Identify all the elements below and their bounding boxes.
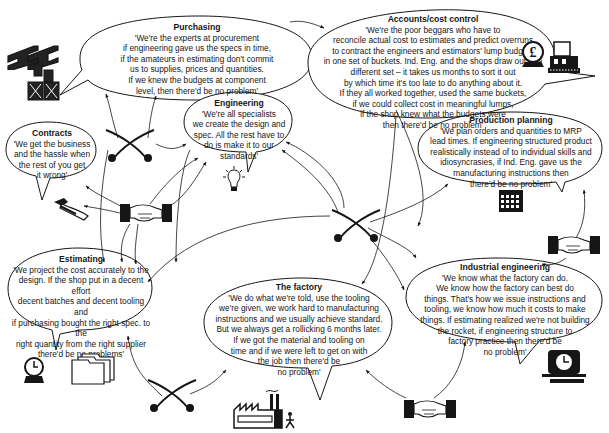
- estimating-quote: 'We project the cost accurately to the d…: [10, 265, 152, 360]
- factory-bubble-text: The factory 'We do what we're told, use …: [206, 282, 392, 377]
- engineering-title: Engineering: [186, 98, 292, 109]
- engineering-bubble-text: Engineering 'We're all specialists we cr…: [186, 98, 292, 162]
- accounts-title: Accounts/cost control: [308, 14, 558, 25]
- pound-coin-globe-icon: £: [520, 40, 546, 68]
- contracts-bubble-text: Contracts 'We get the business and the h…: [8, 128, 96, 181]
- estimating-bubble-text: Estimating 'We project the cost accurate…: [10, 254, 152, 360]
- time-clock-icon: [542, 348, 586, 384]
- file-folders-icon: [68, 352, 116, 386]
- industrial-engineering-bubble-text: Industrial engineering 'We know what the…: [408, 262, 602, 357]
- production-planning-quote: 'We plan orders and quantities to MRP le…: [420, 126, 602, 190]
- hand-signing-icon: [50, 196, 94, 222]
- purchasing-title: Purchasing: [86, 22, 308, 33]
- purchasing-bubble-text: Purchasing 'We're the experts at procure…: [86, 22, 308, 96]
- calendar-icon: [498, 188, 524, 214]
- cash-register-icon: [548, 40, 580, 74]
- handshake-icon: [546, 232, 602, 258]
- contracts-quote: 'We get the business and the hassle when…: [8, 139, 96, 181]
- industrial-engineering-title: Industrial engineering: [408, 262, 602, 273]
- crossed-swords-icon: [328, 206, 384, 244]
- estimating-title: Estimating: [10, 254, 152, 265]
- accounts-bubble-text: Accounts/cost control 'We're the poor be…: [308, 14, 558, 131]
- blame-diagram: Purchasing 'We're the experts at procure…: [0, 0, 609, 433]
- factory-title: The factory: [206, 282, 392, 293]
- light-bulb-icon: [222, 164, 246, 194]
- purchasing-quote: 'We're the experts at procurement if eng…: [86, 33, 308, 97]
- industrial-engineering-quote: 'We know what the factory can do. We kno…: [408, 273, 602, 358]
- production-planning-bubble-text: Production planning 'We plan orders and …: [420, 115, 602, 189]
- pound-glyph: £: [530, 45, 537, 60]
- stacked-crates-icon: [26, 62, 62, 102]
- contracts-title: Contracts: [8, 128, 96, 139]
- handshake-icon: [402, 396, 458, 422]
- engineering-quote: 'We're all specialists we create the des…: [186, 109, 292, 162]
- factory-quote: 'We do what we're told, use the tooling …: [206, 293, 392, 378]
- handshake-icon: [118, 200, 174, 226]
- crossed-swords-icon: [102, 126, 158, 164]
- crossed-swords-icon: [144, 376, 200, 414]
- production-planning-title: Production planning: [420, 115, 602, 126]
- clock-globe-icon: [22, 356, 46, 386]
- factory-building-icon: [230, 386, 300, 430]
